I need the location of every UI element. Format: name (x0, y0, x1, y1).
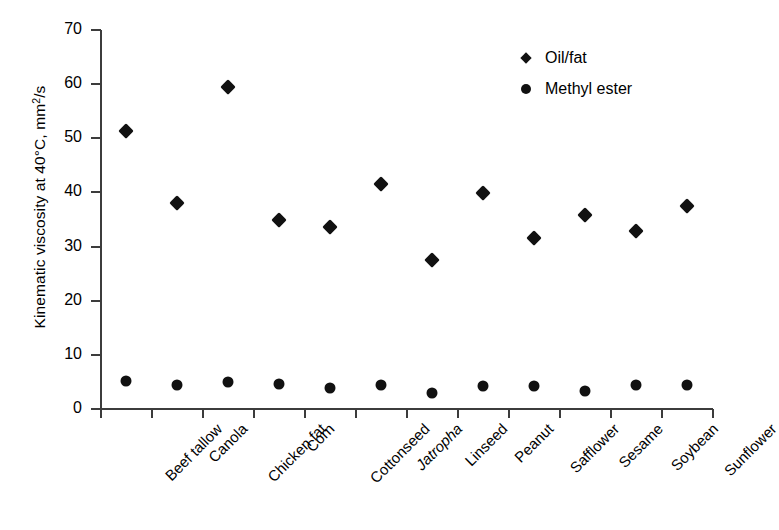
data-point-diamond (424, 252, 440, 268)
y-axis-title-superscript: 2 (30, 98, 42, 104)
y-axis-tick-label: 70 (36, 21, 82, 37)
y-axis-tick-label: 0 (36, 400, 82, 416)
legend-item: Methyl ester (516, 73, 632, 104)
data-point-diamond (271, 212, 287, 228)
x-axis-label-safflower: Safflower (566, 420, 622, 476)
data-point-diamond (628, 223, 644, 239)
x-axis-label-sunflower: Sunflower (720, 420, 779, 479)
data-point-circle (171, 380, 182, 391)
chart-legend: Oil/fatMethyl ester (516, 42, 632, 104)
data-point-circle (426, 387, 437, 398)
x-axis-tick (457, 409, 459, 418)
y-axis-tick (91, 246, 101, 248)
data-point-diamond (373, 176, 389, 192)
y-axis-tick-label: 40 (36, 183, 82, 199)
data-point-diamond (526, 230, 542, 246)
legend-item: Oil/fat (516, 42, 632, 73)
x-axis-tick (202, 409, 204, 418)
data-point-diamond (475, 185, 491, 201)
y-axis-tick (91, 191, 101, 193)
x-axis-tick (712, 409, 714, 418)
y-axis-tick-label: 20 (36, 292, 82, 308)
data-point-circle (222, 376, 233, 387)
x-axis-label-soybean: Soybean (667, 420, 721, 474)
y-axis-tick (91, 83, 101, 85)
y-axis-tick-label: 10 (36, 346, 82, 362)
data-point-circle (528, 380, 539, 391)
x-axis-tick (508, 409, 510, 418)
data-point-diamond (322, 219, 338, 235)
x-axis-tick (406, 409, 408, 418)
y-axis-tick (91, 354, 101, 356)
y-axis-tick (91, 137, 101, 139)
legend-item-label: Oil/fat (545, 49, 587, 67)
data-point-circle (477, 381, 488, 392)
data-point-diamond (169, 195, 185, 211)
data-point-circle (375, 380, 386, 391)
x-axis-tick (253, 409, 255, 418)
data-point-diamond (220, 80, 236, 96)
data-point-circle (630, 380, 641, 391)
x-axis-tick (610, 409, 612, 418)
x-axis-tick (100, 409, 102, 418)
x-axis-tick (661, 409, 663, 418)
y-axis-tick-label: 60 (36, 75, 82, 91)
x-axis-tick (559, 409, 561, 418)
diamond-marker-icon (516, 54, 536, 62)
y-axis-tick (91, 29, 101, 31)
y-axis-tick-label: 30 (36, 238, 82, 254)
x-axis-tick (151, 409, 153, 418)
data-point-circle (681, 380, 692, 391)
data-point-circle (324, 383, 335, 394)
data-point-diamond (679, 198, 695, 214)
y-axis-tick (91, 300, 101, 302)
x-axis-tick (304, 409, 306, 418)
data-point-circle (273, 379, 284, 390)
x-axis-label-linseed: Linseed (461, 420, 510, 469)
x-axis-label-sesame: Sesame (615, 420, 666, 471)
data-point-circle (120, 376, 131, 387)
y-axis-tick-label: 50 (36, 129, 82, 145)
legend-item-label: Methyl ester (545, 80, 632, 98)
x-axis-tick (355, 409, 357, 418)
data-point-circle (579, 386, 590, 397)
x-axis-label-peanut: Peanut (510, 420, 556, 466)
circle-marker-icon (516, 84, 536, 94)
data-point-diamond (118, 123, 134, 139)
data-point-diamond (577, 207, 593, 223)
